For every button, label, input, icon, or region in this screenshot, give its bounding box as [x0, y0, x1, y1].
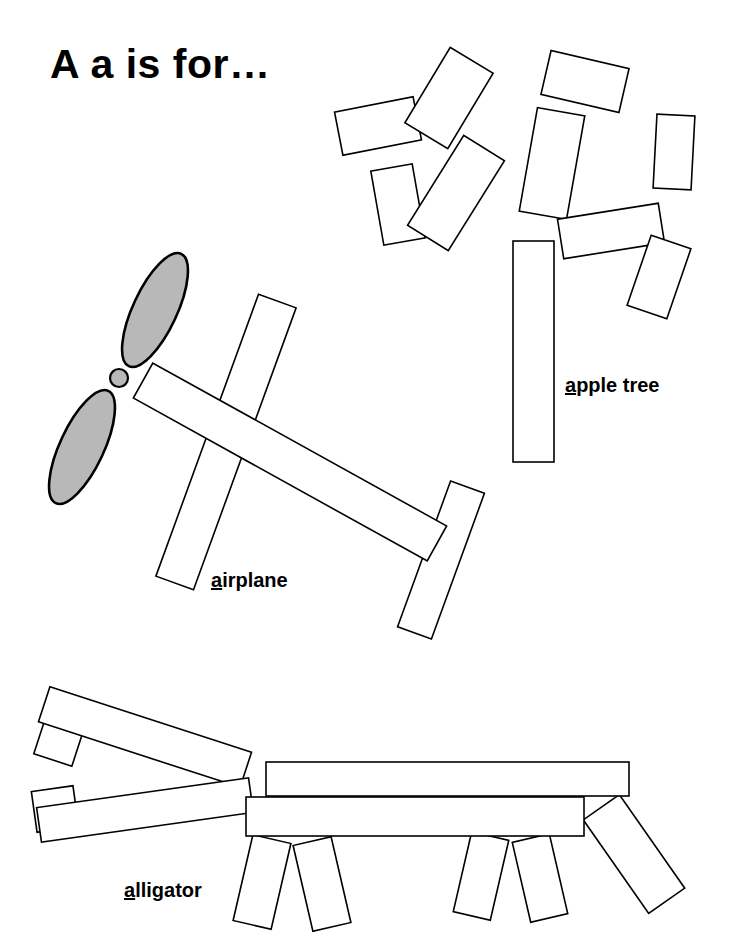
worksheet-artwork: [0, 0, 734, 952]
worksheet-page: A a is for… apple tree airplane alligato…: [0, 0, 734, 952]
alligator-body-upper: [266, 762, 629, 796]
alligator-tail: [583, 795, 684, 914]
alligator-leg-1: [293, 837, 351, 932]
apple-tree-leaf-0: [335, 97, 422, 155]
apple-tree-leaf-4: [541, 51, 629, 113]
airplane-propeller-blade-1: [36, 382, 128, 513]
caption-airplane-initial: a: [211, 569, 222, 591]
airplane-propeller-blade-0: [109, 245, 201, 376]
caption-apple-tree: apple tree: [565, 375, 659, 395]
apple-tree-leaf-6: [653, 114, 695, 190]
apple-tree-figure: [335, 47, 695, 462]
caption-apple-tree-initial: a: [565, 374, 576, 396]
airplane-propeller-hub: [110, 369, 128, 387]
caption-apple-tree-rest: pple tree: [576, 374, 659, 396]
alligator-leg-2: [453, 832, 508, 920]
caption-airplane-rest: irplane: [222, 569, 288, 591]
caption-alligator-initial: a: [124, 879, 135, 901]
alligator-leg-0: [233, 835, 291, 930]
caption-airplane: airplane: [211, 570, 288, 590]
alligator-body-lower: [246, 797, 584, 836]
airplane-tail: [398, 481, 485, 639]
apple-tree-leaf-3: [408, 135, 505, 250]
apple-tree-trunk: [513, 241, 554, 462]
caption-alligator: alligator: [124, 880, 202, 900]
apple-tree-leaf-2: [371, 164, 425, 245]
apple-tree-leaf-5: [519, 108, 585, 220]
caption-alligator-rest: lligator: [135, 879, 202, 901]
alligator-leg-3: [512, 834, 567, 922]
